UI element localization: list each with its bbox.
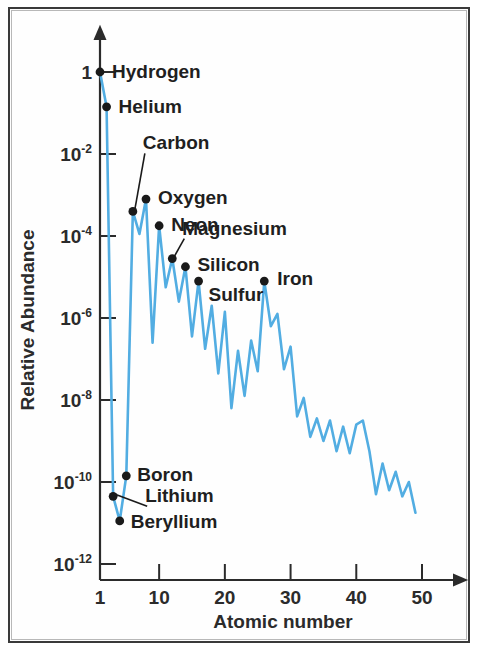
annotation-label: Helium	[119, 96, 182, 117]
y-tick-label: 10-4	[60, 224, 92, 247]
annotation-label: Boron	[137, 464, 193, 485]
x-tick-label: 50	[411, 587, 432, 608]
data-point-marker	[181, 262, 190, 271]
annotation-leader-line	[115, 494, 147, 506]
annotation-label: Magnesium	[182, 218, 287, 239]
figure-container: HydrogenHeliumCarbonOxygenNeonMagnesiumS…	[0, 0, 479, 653]
data-point-marker	[128, 207, 137, 216]
annotation-label: Carbon	[143, 132, 210, 153]
data-point-marker	[109, 492, 118, 501]
annotation-label: Lithium	[145, 485, 214, 506]
x-tick-labels: 11020304050	[95, 587, 433, 608]
y-tick-label: 10-8	[60, 388, 92, 411]
annotation-label: Oxygen	[158, 187, 228, 208]
x-tick-label: 40	[346, 587, 367, 608]
annotation-leader-line	[174, 239, 184, 257]
annotation-label: Beryllium	[131, 511, 218, 532]
x-axis-title: Atomic number	[213, 611, 353, 632]
data-point-marker	[122, 471, 131, 480]
data-point-marker	[96, 68, 105, 77]
x-tick-label: 20	[214, 587, 235, 608]
y-tick-label: 10-12	[54, 552, 93, 575]
annotation-label: Iron	[277, 268, 313, 289]
x-tick-label: 10	[149, 587, 170, 608]
annotation-label: Sulfur	[209, 284, 264, 305]
y-tick-label: 10-2	[60, 142, 92, 165]
data-point-marker	[142, 195, 151, 204]
data-point-marker	[194, 277, 203, 286]
annotation-label: Hydrogen	[112, 61, 201, 82]
abundance-chart: HydrogenHeliumCarbonOxygenNeonMagnesiumS…	[0, 0, 479, 653]
x-tick-group	[100, 564, 422, 580]
data-point-marker	[155, 221, 164, 230]
annotation-labels: HydrogenHeliumCarbonOxygenNeonMagnesiumS…	[112, 61, 313, 532]
y-axis-title: Relative Abundance	[17, 230, 38, 411]
y-tick-label: 10-6	[60, 306, 92, 329]
y-tick-label: 10-10	[54, 470, 93, 493]
y-tick-label: 1	[81, 62, 92, 83]
data-point-marker	[102, 102, 111, 111]
annotation-label: Silicon	[197, 254, 259, 275]
data-point-marker	[115, 517, 124, 526]
x-tick-label: 1	[95, 587, 106, 608]
y-tick-labels: 110-210-410-610-810-1010-12	[54, 62, 93, 575]
x-tick-label: 30	[280, 587, 301, 608]
